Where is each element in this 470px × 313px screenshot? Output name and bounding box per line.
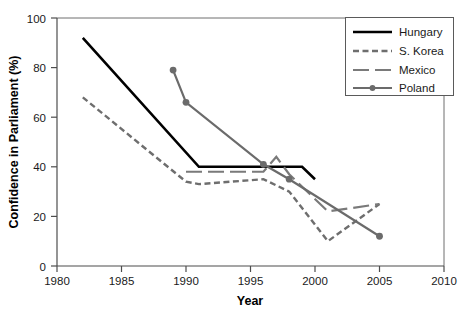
data-point-poland-1989 [170, 67, 177, 74]
y-tick-label-20: 20 [33, 211, 46, 223]
y-axis-title: Confidence in Parliament (%) [7, 56, 21, 229]
data-point-poland-1996 [260, 161, 267, 168]
x-tick-label-1995: 1995 [238, 275, 264, 287]
y-tick-label-100: 100 [27, 13, 46, 25]
data-point-poland-2005 [376, 233, 383, 240]
y-tick-label-60: 60 [33, 112, 46, 124]
y-tick-label-80: 80 [33, 62, 46, 74]
data-point-poland-1990 [183, 99, 190, 106]
x-axis-title: Year [237, 294, 264, 308]
x-tick-label-1990: 1990 [173, 275, 199, 287]
legend-label-hungary: Hungary [399, 26, 443, 38]
legend-marker-poland [370, 85, 376, 91]
y-tick-label-0: 0 [40, 261, 46, 273]
line-chart: 100 80 60 40 20 0 1980 1985 1990 1995 20… [0, 0, 470, 313]
legend: Hungary S. Korea Mexico Poland [346, 18, 454, 96]
data-point-poland-1998 [286, 176, 293, 183]
legend-label-mexico: Mexico [399, 64, 435, 76]
legend-label-s-korea: S. Korea [399, 45, 444, 57]
legend-label-poland: Poland [399, 82, 435, 94]
x-tick-label-1985: 1985 [109, 275, 135, 287]
x-tick-label-1980: 1980 [44, 275, 70, 287]
chart-canvas: 100 80 60 40 20 0 1980 1985 1990 1995 20… [0, 0, 470, 313]
y-tick-label-40: 40 [33, 161, 46, 173]
x-tick-label-2010: 2010 [431, 275, 457, 287]
x-tick-label-2000: 2000 [302, 275, 328, 287]
x-tick-label-2005: 2005 [367, 275, 393, 287]
